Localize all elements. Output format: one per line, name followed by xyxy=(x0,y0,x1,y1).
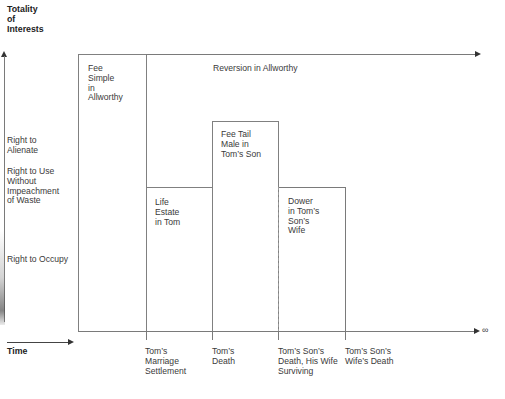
baseline-arrow-icon xyxy=(474,328,480,334)
event-son-death: Tom’s Son’s Death, His Wife Surviving xyxy=(278,347,338,376)
time-arrow-line xyxy=(7,342,69,343)
event-tom-death: Tom’s Death xyxy=(212,347,235,367)
event-son-wife-death: Tom’s Son’s Wife’s Death xyxy=(345,347,394,367)
life-estate-label: Life Estate in Tom xyxy=(155,198,180,227)
reversion-arrow-icon xyxy=(475,51,481,57)
event-marriage-settlement: Tom’s Marriage Settlement xyxy=(145,347,186,376)
tick-tom-death xyxy=(212,331,213,340)
dower-top-line xyxy=(278,187,346,188)
time-arrow-icon xyxy=(68,339,74,345)
scan-shadow xyxy=(0,230,5,325)
fee-tail-label: Fee Tail Male in Tom’s Son xyxy=(221,130,261,159)
y-level-right-to-use: Right to Use Without Impeachment of Wast… xyxy=(7,167,59,206)
reversion-line xyxy=(146,54,476,55)
dower-label: Dower in Tom’s Son’s Wife xyxy=(288,197,319,236)
y-axis-title: Totality of Interests xyxy=(7,5,44,34)
tick-marriage xyxy=(146,331,147,340)
tick-son-death xyxy=(278,331,279,340)
dower-dashed-line xyxy=(278,187,279,332)
time-baseline xyxy=(78,331,475,332)
y-level-right-to-alienate: Right to Alienate xyxy=(7,136,38,156)
fee-simple-label: Fee Simple in Allworthy xyxy=(88,64,123,103)
x-axis-title: Time xyxy=(7,347,27,357)
infinity-symbol: ∞ xyxy=(482,326,488,336)
dower-right-line xyxy=(345,187,346,340)
y-level-right-to-occupy: Right to Occupy xyxy=(7,255,68,265)
reversion-label: Reversion in Allworthy xyxy=(213,64,298,74)
